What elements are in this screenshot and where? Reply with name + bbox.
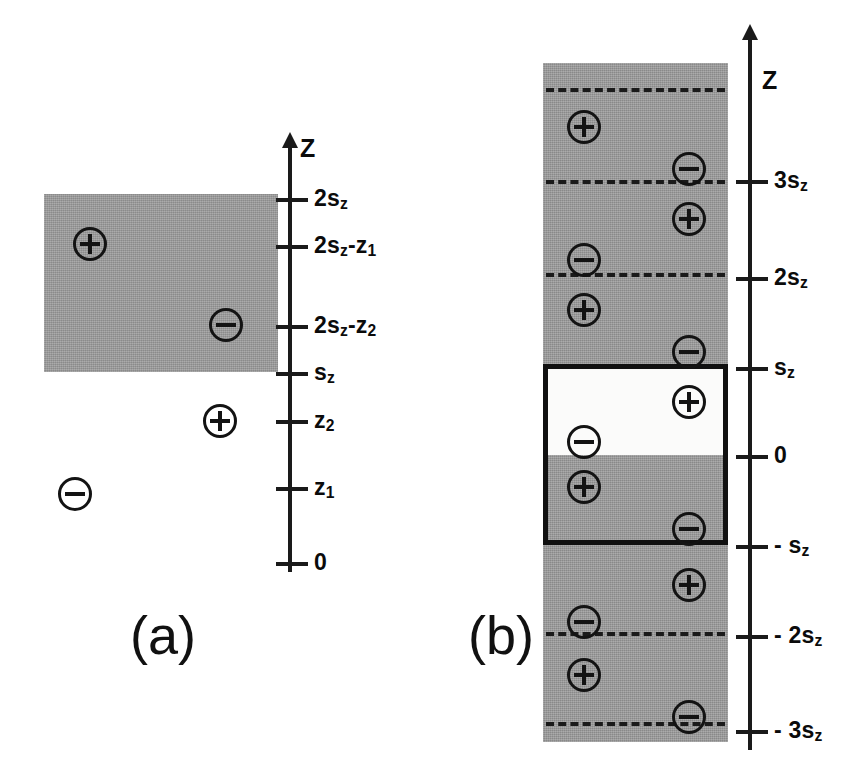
panel-a-tick-label: 2sz-z2 <box>314 314 376 339</box>
panel-b-tick-label: - sz <box>774 534 809 559</box>
panel-b-tick <box>736 180 768 184</box>
minus-stroke <box>65 492 85 496</box>
panel-a-tick <box>276 562 308 566</box>
charge-positive <box>203 404 237 438</box>
tick-label-subscript: z <box>814 632 822 649</box>
minus-stroke <box>679 350 699 354</box>
panel-b-tick <box>736 455 768 459</box>
panel-b-tick-label: - 3sz <box>774 719 822 744</box>
charge-positive <box>672 568 706 602</box>
minus-stroke <box>679 715 699 719</box>
tick-label-text: - 3s <box>774 717 814 743</box>
panel-a-tick-label: 2sz-z1 <box>314 234 376 259</box>
plus-vertical-stroke <box>88 234 92 254</box>
tick-label-text: 2s <box>314 185 340 211</box>
plus-vertical-stroke <box>687 209 691 229</box>
panel-a-tick <box>276 487 308 491</box>
tick-label-text: 0 <box>314 549 327 575</box>
panel-a-tick-label: z1 <box>314 476 335 501</box>
panel-b-tick <box>736 367 768 371</box>
tick-label-text: z <box>314 407 326 433</box>
tick-label-text: 2s <box>314 232 340 258</box>
panel-b-tick-label: sz <box>774 356 795 381</box>
figure-canvas: Z 2sz 2sz-z1 2sz-z2 sz z2 z1 0 (a) <box>0 0 856 777</box>
tick-label-subscript: z <box>340 242 348 259</box>
tick-label-subscript: z <box>787 364 795 381</box>
panel-b-tick <box>736 730 768 734</box>
plus-vertical-stroke <box>687 392 691 412</box>
minus-stroke <box>574 620 594 624</box>
charge-negative <box>672 335 706 369</box>
plus-vertical-stroke <box>218 411 222 431</box>
tick-label-subscript: z <box>800 274 808 291</box>
tick-label-subscript: 1 <box>326 484 335 501</box>
panel-a-tick-label: z2 <box>314 409 335 434</box>
tick-label-text: - 2s <box>774 622 814 648</box>
charge-positive <box>567 470 601 504</box>
tick-label-subscript-2: 1 <box>368 242 377 259</box>
charge-positive <box>73 227 107 261</box>
charge-positive <box>567 110 601 144</box>
minus-stroke <box>574 440 594 444</box>
tick-label-text-2: -z <box>348 312 368 338</box>
panel-b-caption: (b) <box>468 608 534 662</box>
tick-label-text: 2s <box>774 264 800 290</box>
charge-positive <box>567 293 601 327</box>
tick-label-text: s <box>774 354 787 380</box>
charge-negative <box>209 308 243 342</box>
panel-a-tick <box>276 420 308 424</box>
minus-stroke <box>216 323 236 327</box>
charge-negative <box>58 477 92 511</box>
charge-positive <box>672 385 706 419</box>
panel-a-tick <box>276 198 308 202</box>
charge-positive <box>672 202 706 236</box>
panel-a-axis-name: Z <box>300 136 315 161</box>
panel-a-axis-line <box>288 146 292 572</box>
period-separator <box>546 88 725 92</box>
tick-label-text: - s <box>774 532 801 558</box>
minus-stroke <box>574 258 594 262</box>
panel-b-tick-label: - 2sz <box>774 624 822 649</box>
tick-label-subscript: z <box>800 177 808 194</box>
plus-vertical-stroke <box>582 300 586 320</box>
panel-b-axis-line <box>748 38 752 750</box>
minus-stroke <box>679 167 699 171</box>
tick-label-subscript: 2 <box>326 417 335 434</box>
tick-label-text: z <box>314 474 326 500</box>
charge-negative <box>567 243 601 277</box>
panel-a-axis-arrow-icon <box>282 132 298 148</box>
tick-label-subscript: z <box>340 195 348 212</box>
panel-b-tick <box>736 545 768 549</box>
plus-vertical-stroke <box>582 477 586 497</box>
tick-label-text: 3s <box>774 167 800 193</box>
charge-negative <box>672 152 706 186</box>
charge-positive <box>567 658 601 692</box>
panel-a-tick <box>276 325 308 329</box>
tick-label-subscript: z <box>814 727 822 744</box>
tick-label-text: 0 <box>774 442 787 468</box>
tick-label-subscript-2: 2 <box>368 322 377 339</box>
plus-vertical-stroke <box>582 665 586 685</box>
panel-a-tick-label: 0 <box>314 551 327 574</box>
panel-b-tick-label: 3sz <box>774 169 808 194</box>
panel-b-tick-label: 2sz <box>774 266 808 291</box>
charge-negative <box>567 425 601 459</box>
charge-negative <box>672 512 706 546</box>
panel-b-axis-name: Z <box>762 68 777 93</box>
tick-label-text: 2s <box>314 312 340 338</box>
panel-b-tick <box>736 635 768 639</box>
panel-b-tick <box>736 277 768 281</box>
panel-a-tick-label: sz <box>314 361 335 386</box>
panel-a-tick <box>276 372 308 376</box>
panel-b-tick-label: 0 <box>774 444 787 467</box>
tick-label-subscript: z <box>801 542 809 559</box>
charge-negative <box>672 700 706 734</box>
tick-label-text-2: -z <box>348 232 368 258</box>
plus-vertical-stroke <box>687 575 691 595</box>
tick-label-subscript: z <box>327 369 335 386</box>
panel-a-caption: (a) <box>130 608 196 662</box>
panel-a-tick-label: 2sz <box>314 187 348 212</box>
tick-label-text: s <box>314 359 327 385</box>
tick-label-subscript: z <box>340 322 348 339</box>
panel-b-axis-arrow-icon <box>742 24 758 40</box>
